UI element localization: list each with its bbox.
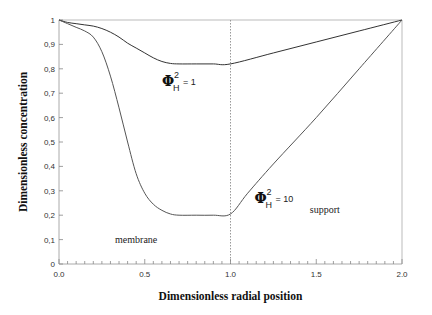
y-axis-title: Dimensionless concentration bbox=[17, 71, 29, 212]
y-tick-label: 0,6 bbox=[44, 114, 56, 123]
x-tick-label: 1.0 bbox=[225, 270, 237, 279]
annotation-value: = 1 bbox=[183, 77, 196, 87]
y-tick-label: 0,3 bbox=[44, 187, 56, 196]
x-ticks: 0.00.51.01.52.0 bbox=[53, 259, 408, 279]
region-label-support: support bbox=[310, 204, 340, 215]
y-tick-label: 0 bbox=[51, 260, 56, 269]
x-axis-title: Dimensionless radial position bbox=[159, 290, 303, 303]
phi-subscript: H bbox=[266, 200, 273, 210]
annotations: ΦH2= 1ΦH2= 10membranesupport bbox=[115, 70, 340, 245]
series-annotation-phi1: ΦH2= 1 bbox=[162, 70, 196, 93]
y-tick-label: 0,8 bbox=[44, 65, 56, 74]
region-label-membrane: membrane bbox=[115, 234, 158, 245]
series-line-phi10 bbox=[59, 20, 402, 216]
phi-superscript: 2 bbox=[174, 70, 179, 80]
y-tick-label: 0,9 bbox=[44, 40, 56, 49]
x-tick-label: 1.5 bbox=[311, 270, 323, 279]
y-tick-label: 0,4 bbox=[44, 162, 56, 171]
x-tick-label: 2.0 bbox=[396, 270, 408, 279]
y-tick-label: 0,5 bbox=[44, 138, 56, 147]
y-tick-label: 0,7 bbox=[44, 89, 56, 98]
series-annotation-phi10: ΦH2= 10 bbox=[255, 187, 294, 210]
phi-subscript: H bbox=[173, 83, 180, 93]
y-tick-label: 1 bbox=[51, 16, 56, 25]
series-lines bbox=[59, 20, 402, 216]
y-ticks: 00,10,20,30,40,50,60,70,80,91 bbox=[44, 16, 63, 269]
annotation-value: = 10 bbox=[276, 194, 294, 204]
y-tick-label: 0,2 bbox=[44, 211, 56, 220]
x-tick-label: 0.0 bbox=[53, 270, 65, 279]
phi-superscript: 2 bbox=[267, 187, 272, 197]
chart: 0.00.51.01.52.0 00,10,20,30,40,50,60,70,… bbox=[0, 0, 432, 315]
y-tick-label: 0,1 bbox=[44, 236, 56, 245]
x-tick-label: 0.5 bbox=[139, 270, 151, 279]
